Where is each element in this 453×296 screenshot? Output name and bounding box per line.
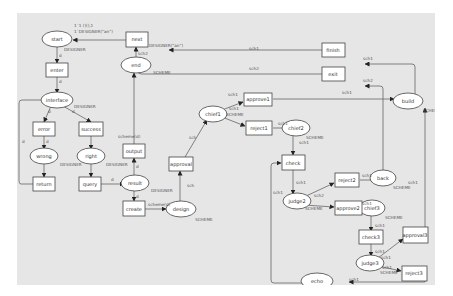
svg-text:reject1: reject1: [250, 125, 267, 132]
svg-text:d: d: [136, 164, 139, 169]
svg-text:d: d: [136, 194, 139, 199]
svg-text:enter: enter: [50, 67, 64, 73]
transition-create[interactable]: create: [123, 201, 145, 216]
svg-text:DESIGNER("an"): DESIGNER("an"): [149, 43, 183, 48]
svg-text:approval: approval: [170, 161, 192, 168]
svg-text:error: error: [38, 126, 51, 132]
transition-output[interactable]: output: [123, 144, 145, 158]
svg-text:sch1: sch1: [228, 92, 238, 97]
svg-text:SCHEME: SCHEME: [423, 108, 435, 113]
svg-text:1`DESIGNER("an"): 1`DESIGNER("an"): [74, 29, 113, 34]
svg-text:SCHEME: SCHEME: [305, 206, 323, 211]
svg-text:approve2: approve2: [336, 205, 360, 212]
place-chief1[interactable]: chief1: [199, 106, 227, 122]
svg-text:SCHEME: SCHEME: [195, 217, 213, 222]
transition-reject2[interactable]: reject2: [335, 173, 359, 187]
petri-net-canvas[interactable]: start interface wrong right result desig…: [17, 13, 435, 285]
svg-text:create: create: [126, 206, 142, 212]
svg-text:DESIGNER: DESIGNER: [64, 47, 86, 52]
svg-text:scheme(d): scheme(d): [118, 134, 141, 139]
transition-approval3[interactable]: approval3: [402, 227, 428, 243]
transition-reject3[interactable]: reject3: [402, 266, 427, 281]
transition-exit[interactable]: exit: [322, 67, 345, 81]
svg-text:scheme(d): scheme(d): [148, 202, 171, 207]
place-back[interactable]: back: [370, 170, 396, 186]
svg-text:interface: interface: [46, 97, 68, 103]
svg-text:SCHEME: SCHEME: [226, 112, 244, 117]
svg-text:back: back: [377, 175, 389, 181]
transition-check[interactable]: check: [282, 155, 305, 170]
svg-text:sch1: sch1: [342, 90, 352, 95]
svg-text:sch1: sch1: [278, 121, 288, 126]
svg-text:sch2: sch2: [138, 51, 148, 56]
svg-text:d: d: [48, 109, 51, 114]
transition-reject1[interactable]: reject1: [246, 121, 272, 135]
svg-text:sch1: sch1: [299, 140, 309, 145]
transition-approval[interactable]: approval: [169, 157, 193, 171]
svg-text:sch1: sch1: [381, 255, 391, 260]
svg-text:DESIGNER: DESIGNER: [74, 104, 96, 109]
svg-text:SCHEME: SCHEME: [393, 185, 411, 190]
place-interface[interactable]: interface: [41, 92, 73, 108]
transition-approve1[interactable]: approve1: [244, 93, 272, 106]
svg-text:sch: sch: [189, 135, 196, 140]
transition-approve2[interactable]: approve2: [335, 201, 362, 215]
svg-text:right: right: [85, 153, 97, 160]
place-build[interactable]: build: [393, 93, 423, 109]
svg-text:wrong: wrong: [36, 153, 51, 160]
svg-text:DESIGNER: DESIGNER: [60, 162, 82, 167]
svg-text:echo: echo: [311, 278, 323, 284]
svg-text:check3: check3: [362, 234, 380, 240]
svg-text:start: start: [51, 36, 63, 42]
transition-finish[interactable]: finish: [322, 43, 345, 57]
svg-text:sch1: sch1: [249, 46, 259, 51]
transition-success[interactable]: success: [79, 122, 103, 136]
transition-enter[interactable]: enter: [46, 63, 68, 77]
place-judge3[interactable]: judge3: [356, 255, 384, 271]
svg-text:sch1: sch1: [375, 249, 385, 254]
transition-return[interactable]: return: [33, 177, 55, 191]
svg-text:SCHEME: SCHEME: [380, 270, 398, 275]
svg-text:finish: finish: [326, 47, 339, 53]
svg-text:judge3: judge3: [360, 260, 378, 267]
place-start[interactable]: start: [42, 31, 72, 47]
svg-text:chief1: chief1: [205, 111, 220, 117]
svg-text:success: success: [81, 126, 101, 132]
transition-query[interactable]: query: [79, 177, 101, 191]
svg-text:end: end: [131, 62, 140, 68]
svg-text:judge2: judge2: [287, 198, 305, 205]
place-end[interactable]: end: [121, 57, 151, 73]
svg-text:sch1: sch1: [296, 180, 306, 185]
svg-text:result: result: [128, 180, 142, 186]
svg-text:reject2: reject2: [338, 177, 355, 184]
svg-text:SCHEME: SCHEME: [385, 215, 403, 220]
svg-text:1`1 ()(),1: 1`1 ()(),1: [74, 23, 94, 28]
svg-text:sch1: sch1: [375, 223, 385, 228]
places: start interface wrong right result desig…: [30, 31, 423, 285]
svg-text:d: d: [59, 53, 62, 58]
place-result[interactable]: result: [121, 175, 149, 191]
svg-text:approve1: approve1: [246, 96, 270, 103]
svg-text:sch1: sch1: [273, 190, 283, 195]
svg-text:output: output: [126, 148, 143, 155]
place-wrong[interactable]: wrong: [30, 148, 58, 164]
svg-text:reject3: reject3: [405, 270, 422, 277]
svg-text:d: d: [46, 139, 49, 144]
svg-text:d: d: [59, 79, 62, 84]
svg-text:exit: exit: [328, 71, 337, 77]
svg-text:sch1: sch1: [349, 277, 359, 282]
transition-next[interactable]: next: [126, 32, 148, 47]
svg-text:return: return: [36, 181, 51, 187]
svg-text:DESIGNER: DESIGNER: [106, 162, 128, 167]
transition-check3[interactable]: check3: [359, 230, 383, 244]
svg-text:build: build: [402, 98, 414, 104]
svg-text:sch1: sch1: [229, 106, 239, 111]
svg-text:d: d: [111, 177, 114, 182]
svg-text:sch2: sch2: [314, 193, 324, 198]
svg-text:sch1: sch1: [363, 56, 373, 61]
place-echo[interactable]: echo: [301, 273, 333, 285]
svg-text:design: design: [173, 206, 190, 213]
place-design[interactable]: design: [166, 201, 196, 217]
transition-error[interactable]: error: [33, 122, 55, 136]
svg-text:SCHEME: SCHEME: [306, 135, 324, 140]
